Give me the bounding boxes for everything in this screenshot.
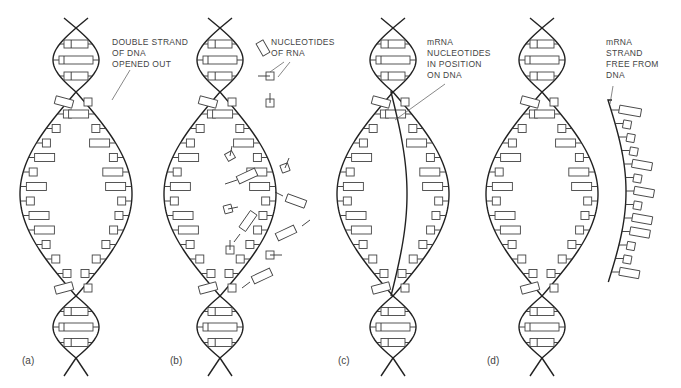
mrna-base	[619, 267, 640, 278]
mrna-base	[622, 120, 631, 129]
dna-base	[196, 125, 204, 133]
dna-base	[426, 154, 434, 162]
dna-strand-end	[530, 358, 542, 376]
leader-line-b	[270, 62, 284, 72]
dna-base	[343, 197, 351, 205]
dna-base	[401, 98, 409, 106]
dna-base	[351, 226, 371, 234]
dna-base	[236, 255, 244, 263]
dna-base	[568, 241, 576, 249]
mrna-base	[633, 186, 654, 197]
dna-base	[427, 226, 435, 234]
dna-base	[228, 98, 236, 106]
dna-base	[42, 139, 50, 147]
dna-strand-end	[542, 358, 554, 376]
dna-base	[518, 255, 526, 263]
dna-base	[401, 284, 409, 292]
dna-strand-end	[530, 18, 542, 28]
dna-base	[26, 197, 34, 205]
nucleotide-stem	[234, 234, 240, 242]
mrna-base	[633, 201, 642, 210]
dna-base	[407, 139, 427, 147]
dna-strand-end	[220, 18, 232, 28]
dna-base	[254, 226, 262, 234]
free-rna-nucleotide	[256, 40, 270, 56]
nucleotide-stem	[302, 220, 310, 226]
nucleotide-stem	[242, 282, 250, 288]
dna-base	[420, 168, 440, 176]
base-pair	[208, 40, 232, 48]
dna-strand-end	[220, 358, 232, 376]
dna-base	[576, 226, 584, 234]
dna-base	[250, 183, 270, 191]
dna-base	[346, 212, 366, 220]
dna-strand-end	[381, 18, 393, 28]
dna-base	[435, 197, 443, 205]
dna-base	[259, 212, 267, 220]
dna-base	[84, 98, 92, 106]
dna-base	[179, 154, 199, 162]
dna-base	[234, 139, 254, 147]
dna-base	[52, 125, 60, 133]
base-pair	[64, 339, 88, 347]
dna-base	[29, 168, 37, 176]
base-pair	[530, 339, 554, 347]
dna-base	[495, 168, 503, 176]
dna-base	[535, 110, 555, 118]
mrna-base	[631, 159, 652, 170]
dna-strand-right	[220, 92, 276, 296]
dna-strand-end	[393, 358, 405, 376]
base-pair	[208, 308, 232, 316]
panel-letter-c: (c)	[338, 355, 350, 366]
dna-base	[581, 212, 589, 220]
mrna-base	[629, 227, 650, 238]
base-pair	[64, 72, 88, 80]
base-pair	[64, 308, 88, 316]
dna-base	[550, 98, 558, 106]
dna-base	[170, 183, 190, 191]
dna-base	[42, 241, 50, 249]
label-b: NUCLEOTIDES OF RNA	[271, 37, 335, 59]
base-pair	[381, 339, 405, 347]
dna-base	[262, 197, 270, 205]
base-pair	[530, 40, 554, 48]
dna-strand-end	[76, 18, 88, 28]
dna-strand-right	[542, 92, 598, 296]
dna-base	[371, 282, 390, 294]
label-c: mRNA NUCLEOTIDES IN POSITION ON DNA	[427, 37, 491, 81]
dna-base	[398, 270, 406, 278]
dna-base	[547, 270, 555, 278]
dna-base	[253, 154, 261, 162]
dna-base	[178, 226, 198, 234]
dna-base	[29, 212, 49, 220]
dna-base	[106, 183, 126, 191]
base-pair	[530, 308, 554, 316]
leader-line-d	[610, 86, 613, 104]
label-d: mRNA STRAND FREE FROM DNA	[606, 37, 659, 81]
dna-base	[198, 282, 217, 294]
mrna-base	[623, 255, 632, 264]
dna-base	[103, 168, 123, 176]
dna-base	[432, 212, 440, 220]
dna-base	[110, 226, 118, 234]
dna-base	[173, 212, 193, 220]
dna-base	[419, 241, 427, 249]
dna-strand-end	[208, 358, 220, 376]
base-pair	[208, 72, 232, 80]
panel-letter-d: (d)	[487, 355, 499, 366]
dna-base	[225, 270, 233, 278]
free-rna-nucleotide	[275, 225, 297, 241]
dna-base	[92, 255, 100, 263]
diagram-canvas	[0, 0, 681, 388]
dna-base	[575, 154, 583, 162]
base-pair	[381, 72, 405, 80]
dna-base	[90, 139, 110, 147]
dna-base	[508, 241, 516, 249]
dna-base	[69, 110, 89, 118]
dna-transcription-diagram: DOUBLE STRAND OF DNA OPENED OUT NUCLEOTI…	[0, 0, 681, 388]
dna-strand-left	[337, 92, 393, 296]
dna-base	[170, 197, 178, 205]
dna-base	[500, 226, 520, 234]
dna-base	[207, 270, 215, 278]
dna-base	[186, 139, 194, 147]
